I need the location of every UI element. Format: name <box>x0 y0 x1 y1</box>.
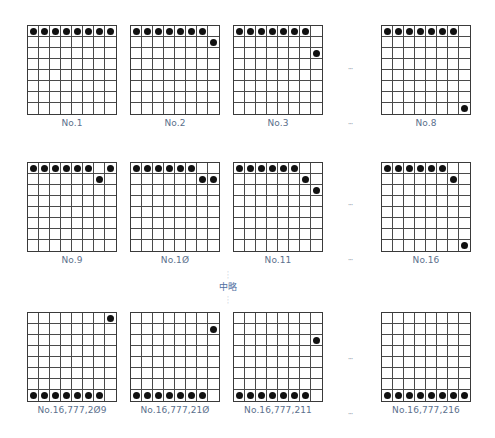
board-cell <box>131 26 142 37</box>
board-cell <box>197 26 208 37</box>
board-cell <box>459 207 470 218</box>
board <box>130 162 220 252</box>
stone-icon <box>166 165 173 172</box>
board-cell <box>382 390 393 401</box>
board-cell <box>197 92 208 103</box>
board-cell <box>61 103 72 114</box>
board-cell <box>186 379 197 390</box>
board-cell <box>393 229 404 240</box>
board-cell <box>393 357 404 368</box>
board-cell <box>50 324 61 335</box>
stone-icon <box>144 28 151 35</box>
board-cell <box>415 240 426 251</box>
stone-icon <box>133 392 140 399</box>
board-cell <box>164 357 175 368</box>
board-cell <box>393 81 404 92</box>
board-cell <box>415 185 426 196</box>
board-cell <box>197 240 208 251</box>
board-cell <box>94 229 105 240</box>
board-cell <box>393 335 404 346</box>
board-cell <box>256 324 267 335</box>
board-cell <box>50 218 61 229</box>
board-cell <box>72 324 83 335</box>
board-cell <box>142 59 153 70</box>
board <box>381 25 471 115</box>
board-cell <box>208 81 219 92</box>
board-cell <box>382 313 393 324</box>
board-cell <box>105 37 116 48</box>
board-cell <box>50 81 61 92</box>
board-cell <box>28 59 39 70</box>
stone-icon <box>280 165 287 172</box>
board-cell <box>278 335 289 346</box>
board <box>130 25 220 115</box>
stone-icon <box>291 392 298 399</box>
board-cell <box>164 48 175 59</box>
board-cell <box>153 324 164 335</box>
board-cell <box>382 163 393 174</box>
board-cell <box>72 26 83 37</box>
board-cell <box>415 357 426 368</box>
board-cell <box>426 59 437 70</box>
stone-icon <box>96 392 103 399</box>
board-cell <box>404 313 415 324</box>
board-cell <box>61 368 72 379</box>
board-cell <box>234 207 245 218</box>
board-cell <box>105 313 116 324</box>
board-cell <box>164 240 175 251</box>
board-cell <box>105 357 116 368</box>
board-cell <box>83 185 94 196</box>
stone-icon <box>236 28 243 35</box>
board-cell <box>234 37 245 48</box>
board-cell <box>83 313 94 324</box>
board-cell <box>105 196 116 207</box>
board-cell <box>382 196 393 207</box>
board-cell <box>208 207 219 218</box>
board-cell <box>382 229 393 240</box>
board-cell <box>105 240 116 251</box>
board-cell <box>197 70 208 81</box>
stone-icon <box>85 165 92 172</box>
board-cell <box>404 185 415 196</box>
board-cell <box>289 313 300 324</box>
board-cell <box>300 81 311 92</box>
board-cell <box>278 81 289 92</box>
board-cell <box>234 174 245 185</box>
board-cell <box>83 196 94 207</box>
board-cell <box>426 335 437 346</box>
board-cell <box>186 357 197 368</box>
board-cell <box>39 59 50 70</box>
board-cell <box>39 240 50 251</box>
board-cell <box>142 81 153 92</box>
board-cell <box>131 70 142 81</box>
ellipsis-indicator: ··· <box>340 120 360 129</box>
board-cell <box>164 185 175 196</box>
board-cell <box>245 196 256 207</box>
board-cell <box>72 229 83 240</box>
board-cell <box>437 70 448 81</box>
board-cell <box>28 185 39 196</box>
board-cell <box>208 357 219 368</box>
board-cell <box>175 185 186 196</box>
board-cell <box>142 324 153 335</box>
board-cell <box>278 218 289 229</box>
board-cell <box>448 390 459 401</box>
board-cell <box>382 185 393 196</box>
board-cell <box>186 313 197 324</box>
board-cell <box>300 324 311 335</box>
board-cell <box>72 103 83 114</box>
board-cell <box>39 196 50 207</box>
board-cell <box>393 324 404 335</box>
board-cell <box>289 196 300 207</box>
board-cell <box>311 81 322 92</box>
board-cell <box>256 379 267 390</box>
stone-icon <box>107 315 114 322</box>
board-cell <box>142 174 153 185</box>
board-cell <box>382 357 393 368</box>
board-cell <box>437 92 448 103</box>
stone-icon <box>133 165 140 172</box>
board-cell <box>256 174 267 185</box>
board-label: No.16 <box>361 255 491 265</box>
stone-icon <box>417 165 424 172</box>
board-cell <box>245 390 256 401</box>
